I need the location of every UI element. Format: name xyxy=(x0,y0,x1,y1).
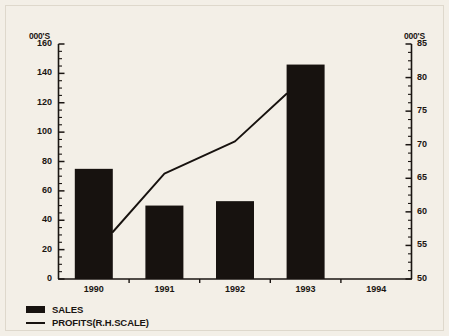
x-axis-label: 1991 xyxy=(139,284,189,294)
bar-swatch-icon xyxy=(26,306,45,313)
x-axis-label: 1993 xyxy=(281,284,331,294)
left-tick-label: 0 xyxy=(26,273,52,283)
left-tick-label: 140 xyxy=(26,67,52,77)
legend-label-sales: SALES xyxy=(52,304,83,315)
left-axis-ticks xyxy=(59,44,65,279)
x-axis-label: 1992 xyxy=(210,284,260,294)
x-axis-label: 1990 xyxy=(69,284,119,294)
right-tick-label: 85 xyxy=(417,38,443,48)
right-axis-ticks xyxy=(406,44,412,279)
left-tick-label: 100 xyxy=(26,126,52,136)
right-tick-label: 75 xyxy=(417,105,443,115)
legend-item-profits: PROFITS(R.H.SCALE) xyxy=(26,316,149,329)
sales-bar xyxy=(287,65,325,279)
sales-bar xyxy=(75,169,113,279)
right-tick-label: 70 xyxy=(417,139,443,149)
right-tick-label: 80 xyxy=(417,72,443,82)
left-tick-label: 80 xyxy=(26,156,52,166)
chart-legend: SALES PROFITS(R.H.SCALE) xyxy=(26,303,149,329)
left-tick-label: 60 xyxy=(26,185,52,195)
legend-label-profits: PROFITS(R.H.SCALE) xyxy=(52,317,149,328)
left-tick-label: 20 xyxy=(26,244,52,254)
profits-line xyxy=(113,94,287,232)
sales-bar xyxy=(216,201,254,279)
right-tick-label: 65 xyxy=(417,172,443,182)
left-tick-label: 160 xyxy=(26,38,52,48)
right-tick-label: 60 xyxy=(417,206,443,216)
x-axis-label: 1994 xyxy=(351,284,401,294)
sales-bar xyxy=(145,206,183,279)
line-swatch-icon xyxy=(26,322,45,324)
right-tick-label: 55 xyxy=(417,239,443,249)
left-tick-label: 120 xyxy=(26,97,52,107)
legend-item-sales: SALES xyxy=(26,303,149,316)
left-tick-label: 40 xyxy=(26,214,52,224)
sales-bars-group xyxy=(75,65,325,279)
right-tick-label: 50 xyxy=(417,273,443,283)
